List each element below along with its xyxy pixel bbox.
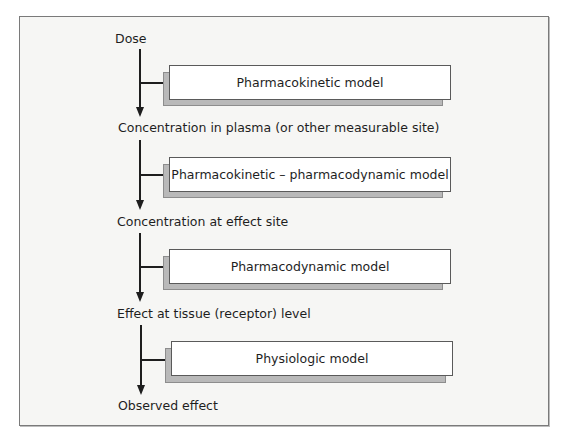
model-label: Pharmacokinetic model xyxy=(237,75,384,90)
model-box-pharmacokinetic: Pharmacokinetic model xyxy=(169,65,451,100)
stage-plasma-concentration: Concentration in plasma (or other measur… xyxy=(118,121,439,135)
arrow-down-icon xyxy=(136,200,144,210)
connector-4 xyxy=(140,359,166,361)
arrow-down-icon xyxy=(136,107,144,117)
stage-dose: Dose xyxy=(115,32,146,46)
model-label: Pharmacodynamic model xyxy=(231,259,390,274)
model-box-pk-pd: Pharmacokinetic – pharmacodynamic model xyxy=(169,157,451,192)
model-label: Pharmacokinetic – pharmacodynamic model xyxy=(171,167,448,182)
flow-arrow-line-2 xyxy=(139,140,141,202)
connector-1 xyxy=(139,82,164,84)
flow-arrow-line-1 xyxy=(139,49,141,109)
flow-arrow-line-3 xyxy=(139,233,141,295)
model-label: Physiologic model xyxy=(256,351,369,366)
stage-tissue-effect: Effect at tissue (receptor) level xyxy=(117,307,311,321)
stage-observed-effect: Observed effect xyxy=(118,399,218,413)
model-box-physiologic: Physiologic model xyxy=(171,341,453,376)
flow-arrow-line-4 xyxy=(140,325,142,388)
connector-2 xyxy=(139,174,164,176)
arrow-down-icon xyxy=(137,385,145,395)
arrow-down-icon xyxy=(136,292,144,302)
model-box-pharmacodynamic: Pharmacodynamic model xyxy=(169,249,451,284)
stage-effect-site-concentration: Concentration at effect site xyxy=(117,215,288,229)
connector-3 xyxy=(139,266,164,268)
